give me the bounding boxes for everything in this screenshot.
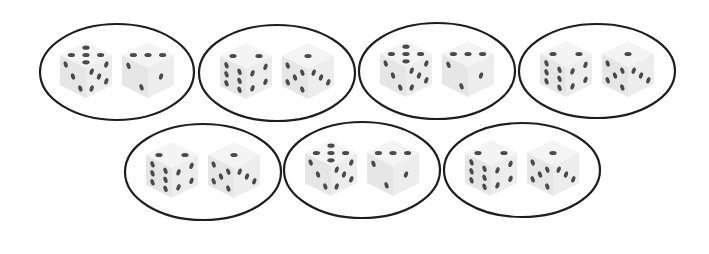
dice-pair-4 [519,24,675,118]
pip [549,151,556,155]
pip [313,151,320,155]
pip [474,151,481,155]
pip [464,52,471,56]
pip [624,52,631,56]
pip [155,153,162,157]
dice-pair-7 [444,123,600,217]
pip [144,53,151,57]
pip [479,52,486,56]
pip [230,153,237,157]
pip [402,45,409,49]
dice-pair-2 [199,25,355,121]
dice-pair-5 [125,124,281,220]
pip [417,52,424,56]
pip [327,158,334,162]
pip [159,53,166,57]
pip [404,151,411,155]
pip [82,53,89,57]
pip [402,52,409,56]
dice-pair-1 [40,24,194,120]
pip [500,151,507,155]
dice-illustration [0,0,709,254]
pip [375,151,382,155]
pip [549,52,556,56]
pip [402,59,409,63]
pip [304,54,311,58]
pip [181,153,188,157]
pip [342,151,349,155]
pip [97,53,104,57]
dice-pairs-figure [0,0,709,254]
pip [327,144,334,148]
pip [229,54,236,58]
dice-pair-3 [359,23,515,119]
pip [130,53,137,57]
pip [255,54,262,58]
pip [388,52,395,56]
pip [575,52,582,56]
pip [450,52,457,56]
pip [82,46,89,50]
pip [82,60,89,64]
pip [327,151,334,155]
pip [389,151,396,155]
dice-pair-6 [284,122,440,218]
pip [68,53,75,57]
